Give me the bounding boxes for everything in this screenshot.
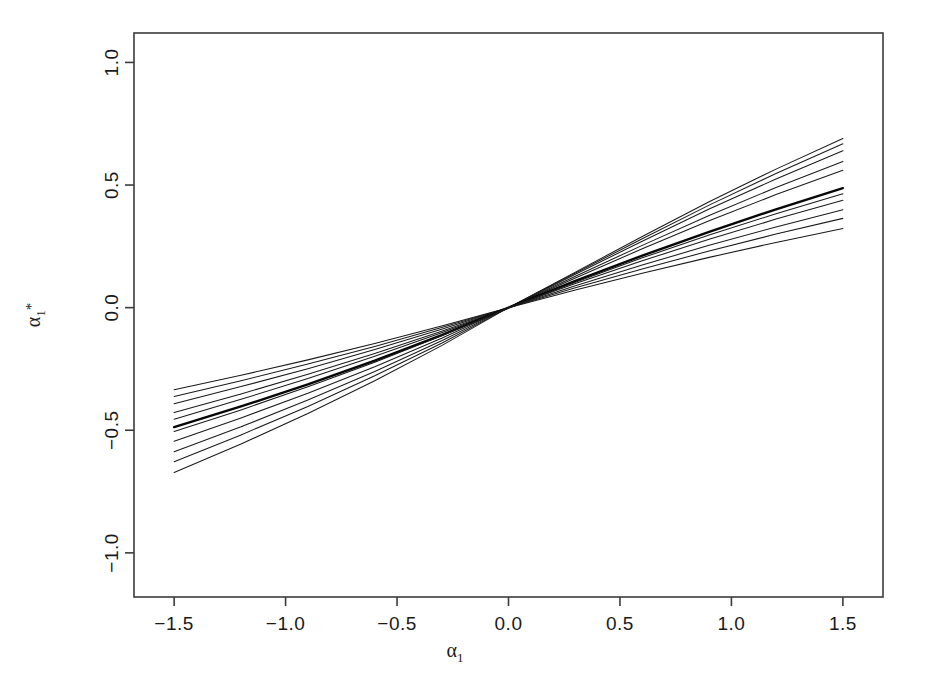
svg-text:α1*: α1* [22, 303, 48, 327]
y-axis-title: α1* [22, 303, 48, 327]
x-tick-label: 1.0 [717, 613, 745, 634]
y-tick-label: −1.0 [101, 533, 122, 573]
y-tick-label: −0.5 [101, 410, 122, 450]
data-line-curve-10 [174, 218, 843, 461]
x-tick-label: −1.5 [154, 613, 194, 634]
x-tick-label: 0.5 [606, 613, 634, 634]
data-line-curve-5 [174, 170, 843, 419]
data-line-curve-4 [174, 161, 843, 412]
x-tick-label: −0.5 [377, 613, 417, 634]
chart-plot: −1.5−1.0−0.50.00.51.01.5 −1.0−0.50.00.51… [0, 0, 929, 676]
y-tick-label: 0.0 [101, 294, 122, 322]
data-line-curve-2 [174, 144, 843, 397]
y-axis-tick-labels: −1.0−0.50.00.51.0 [101, 48, 122, 572]
x-axis-ticks [174, 597, 843, 606]
plot-frame [134, 33, 883, 597]
x-tick-label: 0.0 [495, 613, 523, 634]
y-tick-label: 0.5 [101, 171, 122, 199]
x-tick-label: 1.5 [829, 613, 857, 634]
x-axis-tick-labels: −1.5−1.0−0.50.00.51.01.5 [154, 613, 856, 634]
y-tick-label: 1.0 [101, 48, 122, 76]
data-line-curve-1 [174, 138, 843, 389]
x-axis-title: α1 [447, 639, 464, 665]
figure-container: −1.5−1.0−0.50.00.51.01.5 −1.0−0.50.00.51… [0, 0, 929, 676]
x-tick-label: −1.0 [266, 613, 306, 634]
data-line-curve-9 [174, 210, 843, 452]
data-line-group [174, 138, 843, 472]
y-axis-ticks [125, 62, 134, 552]
data-line-curve-11 [174, 228, 843, 472]
data-line-curve-3 [174, 151, 843, 404]
svg-text:α1: α1 [447, 639, 464, 665]
